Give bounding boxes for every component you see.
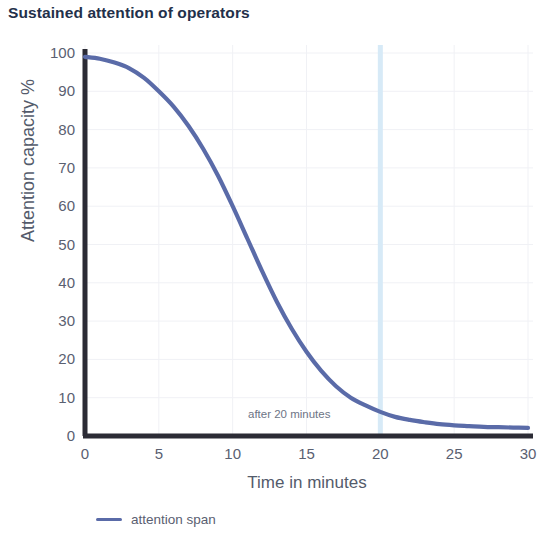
y-tick-label: 90 [35, 82, 75, 99]
legend-label-attention-span: attention span [131, 512, 216, 527]
y-tick-label: 20 [35, 350, 75, 367]
y-tick-label: 80 [35, 121, 75, 138]
y-tick-label: 40 [35, 274, 75, 291]
y-tick-label: 100 [35, 44, 75, 61]
y-tick-label: 10 [35, 389, 75, 406]
y-tick-label: 60 [35, 197, 75, 214]
chart-legend: attention span [96, 512, 216, 527]
x-tick-label: 25 [434, 445, 474, 462]
chart-annotation-after-20-minutes: after 20 minutes [248, 408, 330, 420]
x-tick-label: 15 [287, 445, 327, 462]
x-tick-label: 0 [65, 445, 105, 462]
x-tick-label: 5 [139, 445, 179, 462]
x-tick-label: 20 [360, 445, 400, 462]
y-tick-label: 0 [35, 427, 75, 444]
gridlines [85, 45, 533, 436]
x-axis-title: Time in minutes [84, 473, 530, 493]
y-tick-label: 30 [35, 312, 75, 329]
x-tick-label: 10 [213, 445, 253, 462]
y-tick-label: 70 [35, 159, 75, 176]
x-tick-label: 30 [508, 445, 541, 462]
y-tick-label: 50 [35, 236, 75, 253]
legend-swatch-attention-span [96, 518, 122, 522]
